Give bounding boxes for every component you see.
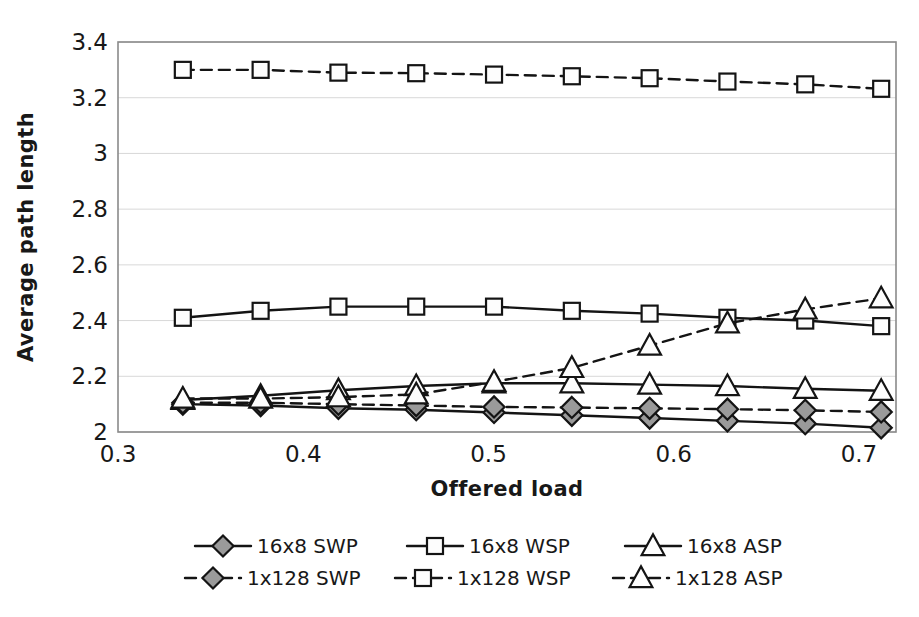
y-axis-title: Average path length	[14, 112, 38, 362]
data-point-marker	[642, 70, 658, 86]
data-point-marker	[564, 303, 580, 319]
data-point-marker	[797, 76, 813, 92]
x-tick-label: 0.3	[100, 441, 137, 467]
data-point-marker	[408, 65, 424, 81]
data-point-marker	[719, 74, 735, 90]
data-point-marker	[486, 299, 502, 315]
data-point-marker	[330, 299, 346, 315]
data-point-marker	[175, 62, 191, 78]
y-tick-label: 3.2	[71, 85, 108, 111]
data-point-marker	[486, 67, 502, 83]
data-point-marker	[330, 65, 346, 81]
legend-label: 1x128 WSP	[457, 566, 571, 590]
y-tick-label: 3.4	[71, 29, 108, 55]
data-point-marker	[873, 81, 889, 97]
legend-item-1x128-swp[interactable]: 1x128 SWP	[185, 566, 361, 590]
y-tick-label: 2.8	[71, 196, 108, 222]
x-tick-label: 0.4	[285, 441, 322, 467]
chart-background	[0, 0, 919, 617]
data-point-marker	[408, 299, 424, 315]
legend-item-16x8-swp[interactable]: 16x8 SWP	[195, 534, 358, 558]
legend-label: 16x8 WSP	[469, 534, 570, 558]
y-tick-label: 2.4	[71, 308, 108, 334]
x-tick-label: 0.7	[841, 441, 878, 467]
chart-figure: 22.22.42.62.833.23.4 0.30.40.50.60.7 Ave…	[0, 0, 919, 617]
data-point-marker	[873, 318, 889, 334]
x-tick-label: 0.6	[655, 441, 692, 467]
y-tick-label: 2.2	[71, 363, 108, 389]
data-point-marker	[253, 303, 269, 319]
legend-label: 16x8 ASP	[687, 534, 782, 558]
y-tick-label: 3	[93, 140, 108, 166]
data-point-marker	[564, 68, 580, 84]
data-point-marker	[253, 62, 269, 78]
x-axis-title: Offered load	[431, 477, 584, 501]
legend-marker-sample	[427, 538, 443, 554]
x-tick-label: 0.5	[470, 441, 507, 467]
legend-label: 1x128 SWP	[247, 566, 361, 590]
legend-item-1x128-wsp[interactable]: 1x128 WSP	[395, 566, 571, 590]
legend-item-1x128-asp[interactable]: 1x128 ASP	[613, 566, 783, 590]
legend-label: 1x128 ASP	[675, 566, 783, 590]
legend-label: 16x8 SWP	[257, 534, 358, 558]
y-tick-label: 2.6	[71, 252, 108, 278]
average-path-length-line-chart: 22.22.42.62.833.23.4 0.30.40.50.60.7 Ave…	[0, 0, 919, 617]
data-point-marker	[642, 306, 658, 322]
legend-item-16x8-wsp[interactable]: 16x8 WSP	[407, 534, 570, 558]
legend-marker-sample	[415, 570, 431, 586]
data-point-marker	[175, 310, 191, 326]
